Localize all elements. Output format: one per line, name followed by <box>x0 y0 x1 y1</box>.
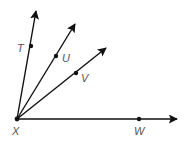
label-t: T <box>17 42 25 54</box>
label-w: W <box>134 125 146 137</box>
point-v <box>74 71 78 75</box>
points <box>15 44 142 122</box>
label-u: U <box>62 52 70 64</box>
label-v: V <box>81 72 90 84</box>
rays <box>17 11 177 119</box>
vertex-x <box>15 117 20 122</box>
diagram-svg: TUVWX <box>0 0 188 145</box>
ray-diagram: TUVWX <box>0 0 188 145</box>
point-w <box>137 117 141 121</box>
label-x: X <box>11 125 20 137</box>
point-u <box>54 54 58 58</box>
labels: TUVWX <box>11 42 146 137</box>
point-t <box>29 44 33 48</box>
